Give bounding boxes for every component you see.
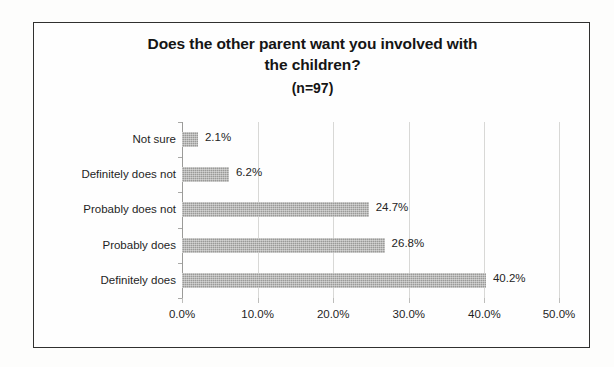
category-label-definitely-does: Definitely does — [40, 273, 176, 287]
bar-definitely-does[interactable] — [182, 273, 486, 288]
bar-row: 6.2% — [182, 157, 560, 192]
x-axis-tick — [258, 298, 259, 303]
bar-value-label: 40.2% — [486, 272, 526, 284]
bar-not-sure[interactable] — [182, 132, 198, 147]
category-label-probably-does-not: Probably does not — [40, 202, 176, 216]
bar-row: 2.1% — [182, 122, 560, 157]
category-label-not-sure: Not sure — [40, 132, 176, 146]
x-tick-label-10: 10.0% — [241, 308, 274, 320]
plot-area: 2.1% 6.2% 24.7% 26.8% 40.2% — [182, 122, 560, 298]
x-tick-label-0: 0.0% — [169, 308, 195, 320]
category-label-definitely-does-not: Definitely does not — [40, 167, 176, 181]
bar-value-label: 6.2% — [229, 166, 262, 178]
x-tick-label-30: 30.0% — [392, 308, 425, 320]
x-tick-label-20: 20.0% — [317, 308, 350, 320]
bar-value-label: 2.1% — [198, 131, 231, 143]
bar-row: 40.2% — [182, 263, 560, 298]
bar-value-label: 24.7% — [369, 201, 409, 213]
x-axis-tick — [484, 298, 485, 303]
chart-title-line-2: the children? — [64, 54, 561, 75]
x-axis-tick — [333, 298, 334, 303]
bar-definitely-does-not[interactable] — [182, 167, 229, 182]
chart-title-block: Does the other parent want you involved … — [64, 33, 561, 99]
x-axis-tick — [182, 298, 183, 303]
category-axis: Not sure Definitely does not Probably do… — [40, 122, 176, 298]
bar-probably-does[interactable] — [182, 238, 385, 253]
chart-title-line-1: Does the other parent want you involved … — [64, 33, 561, 54]
bar-row: 24.7% — [182, 192, 560, 227]
x-axis-labels: 0.0% 10.0% 20.0% 30.0% 40.0% 50.0% — [182, 308, 560, 326]
category-label-probably-does: Probably does — [40, 238, 176, 252]
chart-sample-size: (n=97) — [64, 77, 561, 99]
bar-row: 26.8% — [182, 228, 560, 263]
x-axis-tick — [409, 298, 410, 303]
x-tick-label-40: 40.0% — [468, 308, 501, 320]
bar-value-label: 26.8% — [385, 237, 425, 249]
x-axis-tick — [559, 298, 560, 303]
x-tick-label-50: 50.0% — [543, 308, 576, 320]
bar-probably-does-not[interactable] — [182, 202, 369, 217]
page-background: Does the other parent want you involved … — [0, 0, 614, 367]
